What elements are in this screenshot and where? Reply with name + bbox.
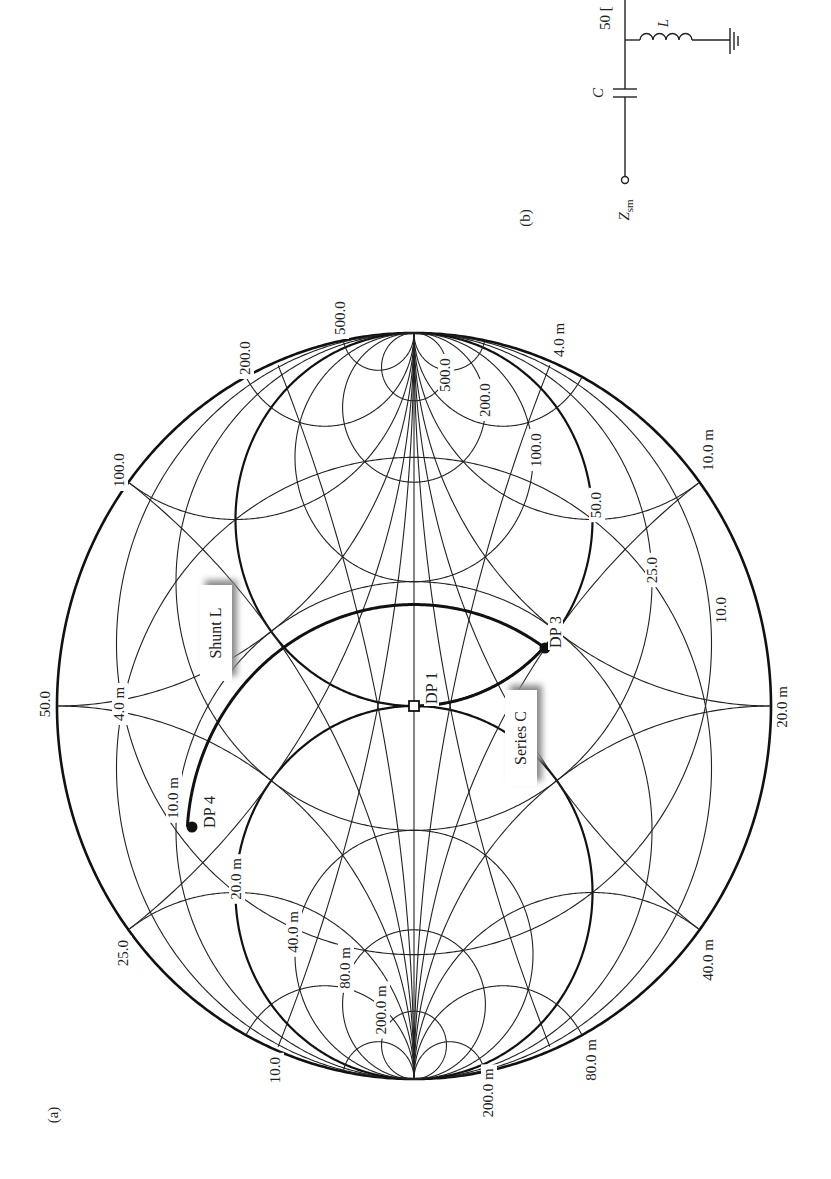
svg-text:4.0 m: 4.0 m — [551, 323, 567, 358]
smith-chart-figure: (a) 500.0200.0100.050.025.010.0500.0200.… — [0, 0, 831, 1179]
chart-value-label: 100.0 — [528, 429, 545, 471]
svg-text:40.0 m: 40.0 m — [285, 911, 301, 953]
susceptance-arc — [414, 893, 699, 1080]
chart-value-label: 10.0 m — [165, 773, 182, 823]
susceptance-arc — [414, 986, 582, 1079]
matching-path — [187, 605, 545, 827]
shunt-l-callout: Shunt L — [200, 580, 237, 681]
source-terminal — [622, 177, 629, 184]
filled-dot-marker-icon — [187, 822, 198, 833]
matching-circuit-schematic: (b) C Zsm L 50 [ — [517, 0, 738, 227]
chart-value-label: 200.0 — [477, 379, 494, 421]
svg-text:Shunt L: Shunt L — [207, 607, 224, 658]
chart-value-label: 10.0 — [267, 1053, 284, 1087]
svg-text:DP 1: DP 1 — [423, 672, 440, 704]
chart-value-label: 200.0 m — [480, 1064, 497, 1121]
svg-text:10.0 m: 10.0 m — [165, 777, 181, 819]
capacitor-label: C — [590, 87, 606, 98]
svg-text:80.0 m: 80.0 m — [337, 947, 353, 989]
chart-value-label: 50.0 — [588, 488, 605, 522]
svg-text:200.0: 200.0 — [477, 383, 493, 417]
chart-value-label: 20.0 m — [774, 682, 791, 732]
svg-text:100.0: 100.0 — [528, 433, 544, 467]
chart-value-label: 200.0 — [237, 337, 254, 379]
chart-value-label: 200.0 m — [373, 981, 390, 1038]
svg-text:10.0 m: 10.0 m — [700, 429, 716, 471]
series-c-callout: Series C — [505, 685, 542, 786]
svg-text:DP 4: DP 4 — [201, 796, 218, 828]
callout-boxes: Shunt LSeries C — [200, 580, 542, 786]
svg-text:200.0 m: 200.0 m — [480, 1068, 496, 1118]
svg-text:DP 3: DP 3 — [547, 616, 564, 648]
chart-value-label: 80.0 m — [583, 1035, 600, 1085]
svg-text:20.0 m: 20.0 m — [228, 858, 244, 900]
susceptance-arc — [129, 893, 414, 1080]
open-square-marker-icon — [409, 701, 419, 711]
svg-text:500.0: 500.0 — [332, 301, 348, 335]
svg-text:Zsm: Zsm — [616, 199, 635, 221]
svg-text:Series C: Series C — [512, 711, 529, 765]
chart-value-label: 500.0 — [437, 354, 454, 396]
panel-a-label: (a) — [45, 1107, 62, 1124]
inductor-symbol — [640, 34, 692, 41]
chart-value-label: 80.0 m — [337, 943, 354, 993]
svg-text:80.0 m: 80.0 m — [583, 1039, 599, 1081]
svg-text:40.0 m: 40.0 m — [700, 939, 716, 981]
chart-value-label: 50.0 — [37, 687, 54, 721]
reactance-arc — [246, 333, 414, 426]
svg-text:10.0: 10.0 — [267, 1057, 283, 1083]
chart-value-label: 100.0 — [111, 449, 128, 491]
svg-text:100.0: 100.0 — [111, 453, 127, 487]
chart-value-label: 20.0 m — [228, 854, 245, 904]
svg-text:25.0: 25.0 — [644, 557, 660, 583]
chart-value-label: 4.0 m — [111, 683, 128, 725]
svg-text:10.0: 10.0 — [713, 597, 729, 623]
ground-icon — [730, 28, 738, 54]
svg-text:4.0 m: 4.0 m — [111, 687, 127, 722]
svg-text:25.0: 25.0 — [115, 940, 131, 966]
inductor-label: L — [655, 19, 671, 28]
svg-text:200.0: 200.0 — [237, 341, 253, 375]
chart-value-label: 500.0 — [332, 297, 349, 339]
capacitor-symbol — [613, 89, 637, 97]
chart-value-label: 4.0 m — [551, 319, 568, 361]
svg-text:500.0: 500.0 — [437, 358, 453, 392]
chart-value-label: 10.0 m — [700, 425, 717, 475]
reactance-arc — [129, 333, 414, 520]
panel-b-label: (b) — [517, 209, 534, 227]
shunt-l-path — [187, 605, 545, 827]
svg-text:50.0: 50.0 — [588, 492, 604, 518]
chart-value-label: 25.0 — [115, 936, 132, 970]
chart-value-label: 40.0 m — [285, 907, 302, 957]
chart-value-label: 25.0 — [644, 553, 661, 587]
load-impedance-label: 50 [ — [597, 6, 613, 30]
chart-value-label: 40.0 m — [700, 935, 717, 985]
svg-text:50.0: 50.0 — [37, 691, 53, 717]
svg-text:200.0 m: 200.0 m — [373, 985, 389, 1035]
design-point-dp3: DP 3 — [540, 612, 565, 654]
source-impedance-label: Zsm — [616, 199, 635, 221]
chart-value-label: 10.0 — [713, 593, 730, 627]
svg-text:20.0 m: 20.0 m — [774, 686, 790, 728]
